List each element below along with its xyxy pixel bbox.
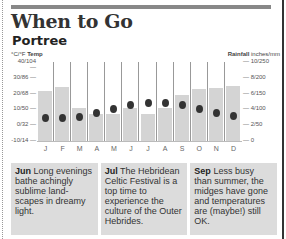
temp-axis-title: °C/°F Temp (11, 51, 43, 57)
month-column (174, 62, 191, 141)
month-label: M (106, 145, 122, 152)
temperature-dot (162, 99, 169, 107)
rain-tick-label: — 0 (243, 137, 254, 143)
chart-baseline (37, 141, 242, 142)
rain-tick-label: — 2/50 (243, 121, 262, 127)
month-label: D (225, 145, 241, 152)
rainfall-bar (89, 114, 103, 141)
month-label: F (55, 145, 71, 152)
rain-axis-name: Rainfall (228, 51, 250, 57)
rain-tick-label: — 8/200 (243, 74, 266, 80)
month-label: A (89, 145, 105, 152)
temperature-dot (230, 112, 237, 120)
page-edge-bar (282, 0, 284, 239)
rain-axis-title: Rainfall inches/mm (228, 51, 280, 57)
note-jun: Jun Long evenings bathe achingly sublime… (11, 163, 98, 235)
temperature-dot (93, 109, 100, 117)
month-column (71, 62, 88, 141)
rain-axis-units: inches/mm (251, 51, 280, 57)
page-border (2, 0, 3, 239)
rainfall-bar (158, 108, 172, 141)
temp-axis-name: Temp (27, 51, 43, 57)
month-column (225, 62, 242, 141)
rainfall-bar (141, 114, 155, 141)
month-label: N (208, 145, 224, 152)
month-label: A (157, 145, 173, 152)
temp-tick-label: 20/68 — (10, 90, 36, 96)
note-month: Jul (105, 166, 118, 176)
month-label: M (72, 145, 88, 152)
month-column (191, 62, 208, 141)
temp-axis-units: °C/°F (11, 51, 25, 57)
climate-chart (37, 62, 242, 141)
month-label: J (123, 145, 139, 152)
temp-tick-label: -10/14 — (10, 137, 36, 143)
month-column (157, 62, 174, 141)
rain-tick-label: — 10/250 (243, 58, 269, 64)
temperature-dot (213, 109, 220, 117)
month-column (208, 62, 225, 141)
rainfall-bar (106, 114, 120, 141)
month-column (37, 62, 54, 141)
month-column (105, 62, 122, 141)
temp-tick-label: 30/86 — (10, 74, 36, 80)
note-jul: Jul The Hebridean Celtic Festival is a t… (101, 163, 188, 235)
temp-tick-label: 0/32 — (10, 121, 36, 127)
note-month: Sep (194, 166, 211, 176)
month-notes: Jun Long evenings bathe achingly sublime… (11, 163, 277, 235)
temp-tick-label: 10/50 — (10, 105, 36, 111)
temperature-dot (179, 101, 186, 109)
month-label: O (191, 145, 207, 152)
month-column (54, 62, 71, 141)
month-label: J (140, 145, 156, 152)
note-sep: Sep Less busy than summer, the midges ha… (190, 163, 277, 235)
rain-tick-label: — 4/100 (243, 105, 266, 111)
month-column (122, 62, 139, 141)
month-column (88, 62, 105, 141)
rainfall-bar (123, 108, 137, 141)
rainfall-bar (192, 89, 206, 141)
month-label: J (38, 145, 54, 152)
location-title: Portree (12, 33, 67, 48)
note-month: Jun (15, 166, 31, 176)
rain-tick-label: — 6/150 (243, 90, 266, 96)
temp-tick-label: 40/104 — (10, 58, 36, 70)
section-title: When to Go (11, 10, 133, 32)
top-rule (11, 5, 271, 9)
month-column (140, 62, 157, 141)
month-label: S (174, 145, 190, 152)
temperature-dot (145, 99, 152, 107)
temperature-dot (110, 105, 117, 113)
